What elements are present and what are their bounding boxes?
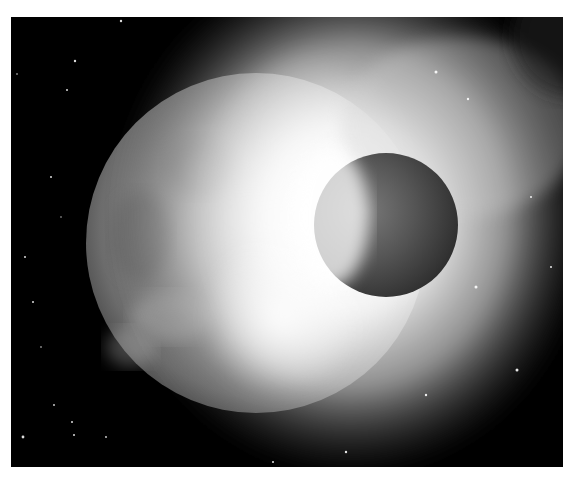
collision-image xyxy=(11,17,563,467)
impact-glow xyxy=(293,147,369,287)
scene xyxy=(11,17,563,467)
